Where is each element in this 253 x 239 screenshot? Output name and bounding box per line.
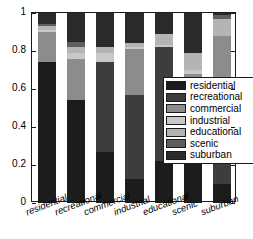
plot-area: residentialrecreationalcommercialindustr… bbox=[31, 12, 236, 202]
bar-segment-commercial[interactable] bbox=[38, 32, 56, 62]
y-tick-mark bbox=[231, 165, 235, 166]
bar-segment-residential[interactable] bbox=[38, 62, 56, 203]
bar-segment-industrial[interactable] bbox=[96, 53, 114, 63]
bar-segment-educational[interactable] bbox=[213, 19, 231, 36]
bar-segment-suburban[interactable] bbox=[38, 13, 56, 24]
bar-segment-educational[interactable] bbox=[96, 47, 114, 53]
y-tick-label: 0.2 bbox=[12, 159, 26, 169]
y-tick-label: 0.8 bbox=[12, 45, 26, 55]
y-tick-mark bbox=[32, 13, 36, 14]
legend-swatch-icon bbox=[166, 81, 186, 90]
legend-item-industrial[interactable]: industrial bbox=[166, 115, 253, 127]
bar-segment-residential[interactable] bbox=[67, 100, 85, 203]
bar-recreational[interactable] bbox=[67, 13, 85, 201]
bar-segment-educational[interactable] bbox=[67, 47, 85, 53]
bar-segment-commercial[interactable] bbox=[67, 59, 85, 101]
legend-label: industrial bbox=[190, 116, 230, 126]
y-tick-mark bbox=[231, 89, 235, 90]
bar-segment-suburban[interactable] bbox=[67, 13, 85, 42]
bar-segment-industrial[interactable] bbox=[155, 45, 173, 47]
bar-segment-educational[interactable] bbox=[38, 26, 56, 30]
y-tick-mark bbox=[32, 165, 36, 166]
chart-legend: residentialrecreationalcommercialindustr… bbox=[163, 77, 253, 164]
bar-segment-industrial[interactable] bbox=[184, 70, 202, 74]
stacked-bar-chart-figure: 00.20.40.60.81 residentialrecreationalco… bbox=[0, 0, 253, 239]
legend-swatch-icon bbox=[166, 128, 186, 137]
bar-commercial[interactable] bbox=[96, 13, 114, 201]
bar-segment-recreational[interactable] bbox=[125, 95, 143, 180]
legend-label: recreational bbox=[190, 92, 242, 102]
y-tick-mark bbox=[32, 127, 36, 128]
bar-segment-educational[interactable] bbox=[184, 53, 202, 70]
legend-item-residential[interactable]: residential bbox=[166, 80, 253, 92]
legend-label: educational bbox=[190, 127, 241, 137]
legend-item-educational[interactable]: educational bbox=[166, 126, 253, 138]
legend-swatch-icon bbox=[166, 116, 186, 125]
legend-swatch-icon bbox=[166, 93, 186, 102]
bar-segment-industrial[interactable] bbox=[125, 47, 143, 49]
legend-label: scenic bbox=[190, 139, 218, 149]
bar-segment-suburban[interactable] bbox=[184, 13, 202, 53]
legend-item-recreational[interactable]: recreational bbox=[166, 92, 253, 104]
y-tick-label: 0.6 bbox=[12, 83, 26, 93]
legend-swatch-icon bbox=[166, 104, 186, 113]
bar-segment-suburban[interactable] bbox=[125, 13, 143, 43]
bar-industrial[interactable] bbox=[125, 13, 143, 201]
y-axis: 00.20.40.60.81 bbox=[0, 12, 28, 202]
legend-label: residential bbox=[190, 81, 236, 91]
y-tick-mark bbox=[32, 89, 36, 90]
bar-segment-suburban[interactable] bbox=[213, 13, 231, 15]
legend-swatch-icon bbox=[166, 139, 186, 148]
y-tick-label: 0.4 bbox=[12, 121, 26, 131]
y-tick-mark bbox=[231, 51, 235, 52]
legend-item-commercial[interactable]: commercial bbox=[166, 103, 253, 115]
bar-segment-recreational[interactable] bbox=[96, 62, 114, 151]
legend-item-suburban[interactable]: suburban bbox=[166, 150, 253, 162]
legend-label: commercial bbox=[190, 104, 241, 114]
bar-segment-suburban[interactable] bbox=[96, 13, 114, 47]
bar-segment-scenic[interactable] bbox=[38, 24, 56, 26]
y-tick-mark bbox=[231, 13, 235, 14]
y-tick-label: 1 bbox=[20, 7, 26, 17]
bar-segment-educational[interactable] bbox=[155, 34, 173, 45]
bar-segment-industrial[interactable] bbox=[38, 30, 56, 32]
bar-segment-suburban[interactable] bbox=[155, 13, 173, 34]
x-axis: residentialrecreationalcommercialindustr… bbox=[0, 203, 253, 239]
legend-swatch-icon bbox=[166, 151, 186, 160]
bar-segment-industrial[interactable] bbox=[67, 53, 85, 59]
bar-segment-scenic[interactable] bbox=[67, 42, 85, 48]
legend-item-scenic[interactable]: scenic bbox=[166, 138, 253, 150]
bar-segment-scenic[interactable] bbox=[213, 15, 231, 19]
y-tick-mark bbox=[32, 51, 36, 52]
bar-segment-educational[interactable] bbox=[125, 43, 143, 47]
bar-segment-commercial[interactable] bbox=[125, 49, 143, 95]
bar-residential[interactable] bbox=[38, 13, 56, 201]
legend-label: suburban bbox=[190, 150, 232, 160]
y-tick-mark bbox=[231, 127, 235, 128]
